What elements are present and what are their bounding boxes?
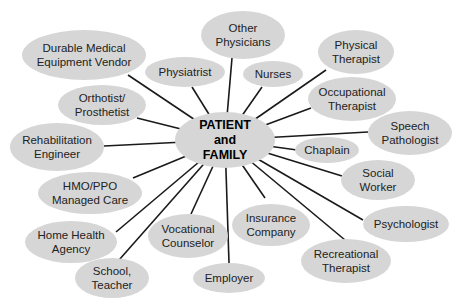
node-physical-therapist: Physical Therapist [318, 30, 394, 74]
node-rehabilitation-engineer: Rehabilitation Engineer [10, 123, 104, 171]
node-school-teacher: School, Teacher [75, 258, 149, 298]
node-social-worker: Social Worker [341, 160, 415, 200]
node-hmo-ppo-managed-care: HMO/PPO Managed Care [38, 172, 142, 214]
node-durable-medical-equipment-vendor: Durable Medical Equipment Vendor [22, 30, 146, 80]
node-nurses: Nurses [243, 61, 303, 87]
node-home-health-agency: Home Health Agency [25, 221, 117, 263]
center-node: PATIENT and FAMILY [175, 112, 275, 168]
node-orthotist-prosthetist: Orthotist/ Prosthetist [58, 85, 146, 125]
node-insurance-company: Insurance Company [232, 204, 310, 246]
node-employer: Employer [193, 263, 265, 293]
node-other-physicians: Other Physicians [201, 11, 285, 59]
node-speech-pathologist: Speech Pathologist [368, 111, 452, 155]
node-psychologist: Psychologist [363, 206, 449, 242]
care-team-diagram: Durable Medical Equipment VendorPhysiatr… [0, 0, 460, 306]
node-chaplain: Chaplain [295, 137, 359, 163]
node-recreational-therapist: Recreational Therapist [301, 239, 391, 283]
node-physiatrist: Physiatrist [145, 57, 225, 87]
node-occupational-therapist: Occupational Therapist [308, 77, 396, 121]
node-vocational-counselor: Vocational Counselor [148, 214, 228, 258]
